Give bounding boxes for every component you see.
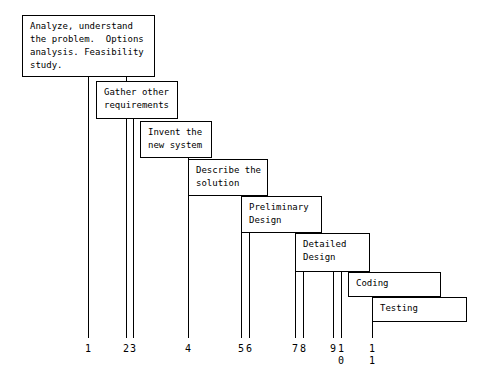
- stage-box-requirements[interactable]: Gather other requirements: [96, 81, 178, 119]
- axis-tick-1: 1: [81, 343, 95, 355]
- waterfall-diagram: Analyze, understand the problem. Options…: [0, 0, 484, 381]
- stage-label-preliminary-design: Preliminary Design: [249, 201, 315, 227]
- stage-box-testing[interactable]: Testing: [372, 297, 467, 322]
- axis-tick-6: 6: [242, 343, 256, 355]
- axis-tick-10: 1 0: [334, 343, 348, 367]
- stage-box-description[interactable]: Describe the solution: [188, 159, 268, 196]
- stage-box-detailed-design[interactable]: Detailed Design: [295, 233, 370, 272]
- stage-label-requirements: Gather other requirements: [104, 86, 171, 112]
- axis-tick-3: 3: [126, 343, 140, 355]
- phase-drop-line: [341, 272, 342, 338]
- stage-label-analysis: Analyze, understand the problem. Options…: [30, 20, 148, 72]
- stage-label-detailed-design: Detailed Design: [303, 238, 363, 264]
- phase-drop-line: [133, 119, 134, 338]
- stage-box-preliminary-design[interactable]: Preliminary Design: [241, 196, 322, 233]
- stage-label-testing: Testing: [380, 302, 460, 315]
- stage-label-description: Describe the solution: [196, 164, 261, 190]
- stage-box-invention[interactable]: Invent the new system: [140, 121, 212, 158]
- phase-drop-line: [88, 77, 89, 338]
- stage-label-invention: Invent the new system: [148, 126, 205, 152]
- axis-tick-8: 8: [296, 343, 310, 355]
- stage-box-coding[interactable]: Coding: [348, 272, 441, 297]
- stage-box-analysis[interactable]: Analyze, understand the problem. Options…: [22, 15, 155, 77]
- phase-drop-line: [333, 272, 334, 338]
- axis-tick-11: 1 1: [365, 343, 379, 367]
- axis-tick-4: 4: [181, 343, 195, 355]
- stage-label-coding: Coding: [356, 277, 434, 290]
